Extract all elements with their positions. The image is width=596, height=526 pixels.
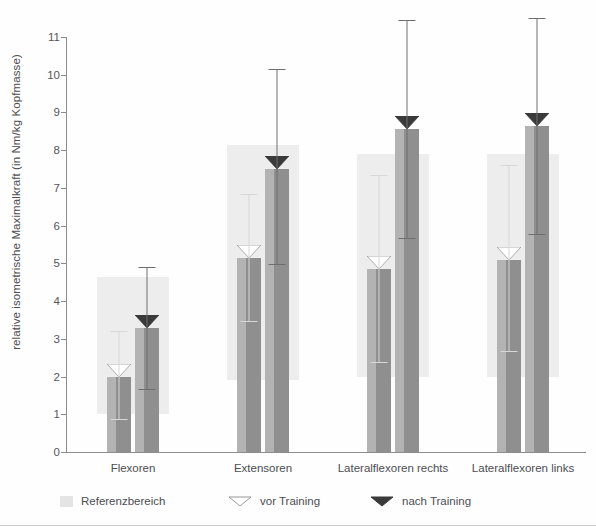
legend-label: nach Training (402, 495, 471, 507)
error-bar-stem (249, 194, 250, 322)
y-tick-mark (61, 112, 66, 113)
top-rule (0, 0, 596, 1)
y-axis-line (66, 37, 67, 452)
y-tick-mark (61, 188, 66, 189)
error-bar-cap-top (111, 331, 128, 332)
y-tick-mark (61, 150, 66, 151)
error-bar-cap-bottom (371, 362, 388, 363)
error-bar-vor-training (369, 175, 389, 364)
error-bar-cap-top (139, 267, 156, 268)
y-tick-label: 9 (54, 106, 60, 118)
filled-triangle-down-icon (370, 496, 394, 507)
x-axis-category-labels: FlexorenExtensorenLateralflexoren rechts… (66, 462, 586, 482)
y-tick-mark (61, 37, 66, 38)
error-bar-vor-training (499, 165, 519, 352)
error-bar-stem (379, 175, 380, 364)
y-tick-label: 11 (48, 31, 60, 43)
error-bar-stem (147, 267, 148, 390)
plot-area (66, 37, 586, 452)
error-bar-stem (537, 18, 538, 235)
error-bar-cap-top (501, 165, 518, 166)
error-bar-vor-training (109, 331, 129, 420)
y-tick-label: 6 (54, 220, 60, 232)
chart-container: relative isometrische Maximalkraft (in N… (0, 0, 596, 526)
error-bar-cap-top (399, 20, 416, 21)
error-bar-stem (509, 165, 510, 352)
error-bar-vor-training (239, 194, 259, 322)
reference-band-swatch-icon (60, 496, 73, 507)
y-tick-label: 0 (54, 446, 60, 458)
y-tick-label: 4 (54, 295, 60, 307)
y-tick-label: 10 (47, 69, 60, 81)
legend-label: vor Training (260, 495, 320, 507)
y-tick-label: 2 (54, 371, 60, 383)
error-bar-nach-training (137, 267, 157, 390)
x-axis-label-3: Lateralflexoren links (472, 462, 574, 474)
y-tick-mark (61, 263, 66, 264)
y-tick-mark (61, 75, 66, 76)
y-tick-mark (61, 301, 66, 302)
error-bar-cap-top (241, 194, 258, 195)
chart-legend: Referenzbereichvor Trainingnach Training (60, 495, 540, 517)
y-tick-mark (61, 452, 66, 453)
error-bar-cap-bottom (529, 234, 546, 235)
error-bar-cap-bottom (241, 321, 258, 322)
error-bar-cap-bottom (139, 389, 156, 390)
y-tick-mark (61, 339, 66, 340)
error-bar-nach-training (267, 69, 287, 265)
legend-item-1[interactable]: vor Training (228, 495, 320, 507)
error-bar-stem (407, 20, 408, 239)
x-axis-line (66, 452, 586, 453)
y-tick-label: 5 (54, 257, 60, 269)
error-bar-cap-bottom (399, 238, 416, 239)
legend-item-2[interactable]: nach Training (370, 495, 471, 507)
y-axis-title: relative isometrische Maximalkraft (in N… (10, 0, 22, 432)
error-bar-nach-training (527, 18, 547, 235)
x-axis-label-2: Lateralflexoren rechts (338, 462, 449, 474)
y-tick-mark (61, 226, 66, 227)
legend-label: Referenzbereich (81, 495, 165, 507)
error-bar-cap-top (269, 69, 286, 70)
outline-triangle-down-icon (228, 496, 252, 507)
legend-item-0[interactable]: Referenzbereich (60, 495, 165, 507)
y-tick-label: 7 (54, 182, 60, 194)
error-bar-stem (119, 331, 120, 420)
error-bar-cap-bottom (501, 351, 518, 352)
error-bar-cap-top (371, 175, 388, 176)
error-bar-cap-bottom (111, 419, 128, 420)
error-bar-cap-bottom (269, 264, 286, 265)
error-bar-nach-training (397, 20, 417, 239)
y-tick-label: 3 (54, 333, 60, 345)
y-tick-label: 1 (54, 408, 60, 420)
y-tick-mark (61, 377, 66, 378)
y-tick-label: 8 (54, 144, 60, 156)
y-tick-mark (61, 414, 66, 415)
error-bar-stem (277, 69, 278, 265)
error-bar-cap-top (529, 18, 546, 19)
x-axis-label-0: Flexoren (111, 462, 156, 474)
x-axis-label-1: Extensoren (234, 462, 292, 474)
y-axis-tick-labels: 01234567891011 (36, 37, 60, 452)
